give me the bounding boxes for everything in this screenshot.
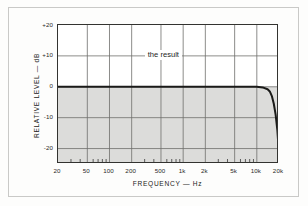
y-tick-label: -10 [31,113,53,120]
y-axis-tick-labels: +20+100-10-20 [28,24,53,163]
x-tick-label: 100 [103,167,114,174]
y-tick-label: +10 [31,51,53,58]
x-tick-label: 20 [53,167,60,174]
x-tick-label: 50 [83,167,90,174]
x-axis-title: FREQUENCY — Hz [57,180,278,187]
x-tick-label: 200 [125,167,136,174]
x-tick-label: 20k [273,167,283,174]
x-tick-label: 5k [230,167,237,174]
x-tick-label: 10k [251,167,261,174]
plot-area-wrapper: the result [57,24,278,163]
shaded-region-below-zero [58,87,278,163]
x-tick-label: 500 [155,167,166,174]
series-annotation-the-result: the result [145,50,182,60]
chart-canvas [58,25,278,163]
plot-area [57,24,278,163]
figure-root: RELATIVE LEVEL — dB +20+100-10-20 the re… [0,0,308,206]
y-tick-label: -20 [31,144,53,151]
x-tick-label: 1k [179,167,186,174]
y-tick-label: +20 [31,21,53,28]
x-tick-label: 2k [201,167,208,174]
x-axis-tick-labels: 20501002005001k2k5k10k20k [57,167,278,179]
y-tick-label: 0 [31,82,53,89]
